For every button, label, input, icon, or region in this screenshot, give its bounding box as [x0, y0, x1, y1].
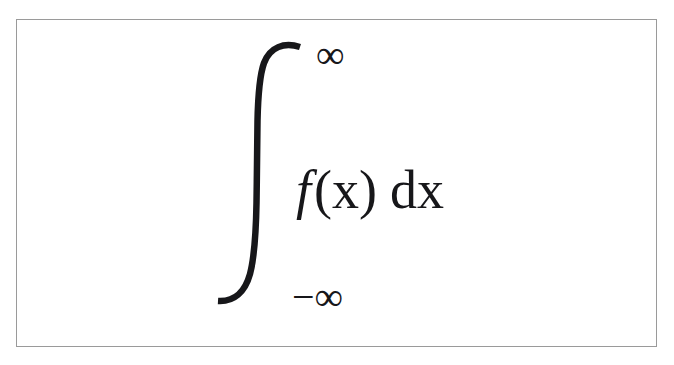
figure-canvas: ∞ f(x)dx −∞: [0, 0, 674, 365]
integration-variable: x: [332, 160, 359, 220]
close-paren: ): [359, 160, 377, 220]
function-name: f: [296, 160, 314, 220]
integral-expression: ∞ f(x)dx −∞: [16, 19, 657, 347]
integrand-expression: f(x)dx: [296, 163, 444, 217]
integral-symbol: [212, 41, 304, 309]
integral-lower-limit: −∞: [292, 277, 343, 317]
open-paren: (: [314, 160, 332, 220]
differential-term: dx: [390, 160, 444, 220]
integral-upper-limit: ∞: [316, 35, 345, 75]
